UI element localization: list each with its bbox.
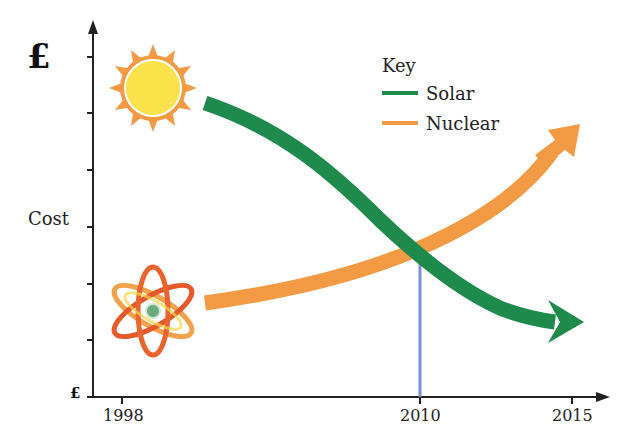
nuclear-arrowhead-icon xyxy=(535,124,580,166)
legend-title: Key xyxy=(382,55,499,76)
legend-swatch-nuclear xyxy=(382,121,418,125)
legend: Key Solar Nuclear xyxy=(382,55,499,138)
y-axis-top-label: £ xyxy=(27,36,51,76)
series-nuclear xyxy=(205,124,580,303)
legend-swatch-solar xyxy=(382,91,418,95)
sun-icon xyxy=(109,44,197,132)
legend-label-solar: Solar xyxy=(426,83,474,104)
series-solar xyxy=(205,103,584,343)
chart-canvas xyxy=(0,0,633,447)
x-tick-1998: 1998 xyxy=(103,406,144,425)
y-axis-arrow-icon xyxy=(88,20,98,34)
x-tick-2010: 2010 xyxy=(400,406,441,425)
x-axis-arrow-icon xyxy=(596,392,610,402)
y-axis xyxy=(87,20,98,397)
y-axis-bottom-label: £ xyxy=(70,384,80,402)
atom-icon xyxy=(107,267,198,355)
x-tick-2015: 2015 xyxy=(552,406,593,425)
y-axis-label: Cost xyxy=(28,208,69,229)
legend-item-solar: Solar xyxy=(382,78,499,108)
x-axis xyxy=(93,392,610,404)
legend-label-nuclear: Nuclear xyxy=(426,113,499,134)
legend-item-nuclear: Nuclear xyxy=(382,108,499,138)
